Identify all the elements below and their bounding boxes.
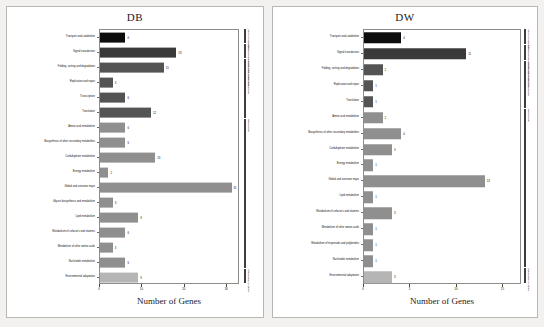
category-label: Energy metabolism: [73, 170, 95, 173]
legend-group-bar: [524, 29, 526, 44]
x-tick-label: 20: [182, 287, 185, 291]
bar-value-label: 13: [157, 156, 160, 159]
legend-group-bar: [524, 109, 526, 267]
category-label: Carbohydrate metabolism: [65, 155, 95, 158]
bar-value-label: 9: [140, 216, 142, 219]
bar: [100, 242, 113, 253]
legend-group-bar: [244, 119, 246, 268]
bar: [364, 255, 373, 266]
bar-value-label: 18: [178, 51, 181, 54]
category-axis-db: Transport and catabolismSignal transduct…: [7, 29, 99, 284]
bar-value-label: 2: [385, 116, 387, 119]
bar: [100, 47, 176, 58]
bar-value-label: 4: [403, 132, 405, 135]
bar: [100, 62, 164, 73]
category-label: Folding, sorting and degradation: [322, 68, 359, 71]
category-label: Nucleotide metabolism: [333, 259, 359, 262]
category-label: Signal transduction: [337, 52, 359, 55]
bar: [100, 92, 125, 103]
category-label: Global and overview maps: [328, 179, 359, 182]
bar-value-label: 1: [375, 244, 377, 247]
category-label: Amino acid metabolism: [68, 125, 95, 128]
bar-value-label: 3: [115, 81, 117, 84]
bar: [364, 223, 373, 234]
bar-value-label: 6: [127, 231, 129, 234]
x-tick-label: 0: [98, 287, 100, 291]
bar: [100, 32, 125, 43]
bar-value-label: 3: [394, 212, 396, 215]
x-tick-label: 10: [140, 287, 143, 291]
category-label: Metabolism of other amino acids: [322, 227, 359, 230]
category-label: Transport and catabolism: [330, 36, 359, 39]
bar-value-label: 13: [487, 180, 490, 183]
legend-group-label: Cellular Processes: [247, 29, 250, 44]
bar-value-label: 12: [153, 111, 156, 114]
legend-group-bar: [244, 59, 246, 118]
category-label: Environmental adaptation: [330, 275, 359, 278]
bar: [100, 137, 125, 148]
bar: [100, 227, 125, 238]
category-label: Replication and repair: [334, 83, 359, 86]
bar-value-label: 15: [166, 66, 169, 69]
legend-group-label: Metabolism: [527, 109, 530, 268]
bar-value-label: 3: [394, 276, 396, 279]
category-label: Energy metabolism: [337, 163, 359, 166]
x-axis-title-dw: Number of Genes: [363, 296, 521, 306]
legend-group-bar: [244, 29, 246, 43]
bar-value-label: 9: [140, 276, 142, 279]
bar: [100, 152, 155, 163]
bar-value-label: 1: [375, 260, 377, 263]
bar: [364, 32, 401, 43]
category-label: Glycan biosynthesis and metabolism: [53, 200, 95, 203]
bar-value-label: 3: [115, 201, 117, 204]
category-label: Signal transduction: [73, 50, 95, 53]
bar: [364, 64, 383, 75]
bar-value-label: 11: [468, 53, 471, 56]
group-legend-db: Cellular ProcessesEnvironmental Informat…: [243, 29, 259, 284]
bar-value-label: 3: [394, 148, 396, 151]
legend-group-bar: [524, 61, 526, 108]
bar-value-label: 1: [375, 100, 377, 103]
bar: [100, 122, 125, 133]
bar: [100, 182, 232, 193]
category-label: Transport and catabolism: [66, 35, 95, 38]
legend-group-label: Genetic Information Processing: [247, 59, 250, 119]
category-label: Metabolism of cofactors and vitamins: [316, 211, 359, 214]
category-label: Metabolism of cofactors and vitamins: [52, 230, 95, 233]
bar: [364, 96, 373, 107]
bar-value-label: 31: [234, 186, 237, 189]
x-tick-label: 0: [362, 287, 364, 291]
group-legend-dw: Cellular ProcessesEnvironmental Informat…: [523, 29, 539, 284]
category-label: Metabolism of terpenoids and polyketides: [311, 243, 359, 246]
bar-value-label: 1: [375, 196, 377, 199]
legend-group-label: Organismal Systems: [527, 268, 530, 284]
bar: [364, 48, 466, 59]
bar-value-label: 6: [127, 261, 129, 264]
bar: [364, 80, 373, 91]
legend-group-bar: [244, 269, 246, 283]
legend-group-label: Metabolism: [247, 119, 250, 269]
bar: [100, 167, 108, 178]
category-label: Transcription: [80, 95, 95, 98]
bar: [364, 144, 392, 155]
bar: [364, 239, 373, 250]
bar: [100, 107, 151, 118]
bar: [100, 77, 113, 88]
bar-value-label: 4: [403, 37, 405, 40]
bar: [100, 272, 138, 283]
x-axis-title-db: Number of Genes: [99, 296, 239, 306]
category-label: Translation: [82, 110, 95, 113]
bar: [364, 208, 392, 219]
x-tick-label: 5: [409, 287, 411, 291]
bar-value-label: 3: [115, 246, 117, 249]
x-tick-label: 30: [225, 287, 228, 291]
category-label: Amino acid metabolism: [332, 115, 359, 118]
plot-area-dw: 411211243113131113: [363, 29, 521, 284]
bar: [100, 257, 125, 268]
bar-value-label: 6: [127, 36, 129, 39]
bar: [364, 192, 373, 203]
chart-title-db: DB: [7, 11, 263, 23]
bar-value-label: 6: [127, 126, 129, 129]
category-label: Environmental adaptation: [66, 275, 95, 278]
category-label: Biosynthesis of other secondary metaboli…: [308, 131, 359, 134]
